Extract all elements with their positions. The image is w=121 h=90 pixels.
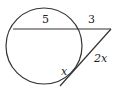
label-external-top: 3 xyxy=(88,13,95,26)
label-external-lower: 2x xyxy=(93,52,108,65)
diagram-canvas: 5 3 2x x xyxy=(0,0,121,90)
label-chord-top: 5 xyxy=(42,13,49,26)
label-chord-lower: x xyxy=(61,65,68,78)
geometry-diagram: 5 3 2x x xyxy=(0,0,121,90)
